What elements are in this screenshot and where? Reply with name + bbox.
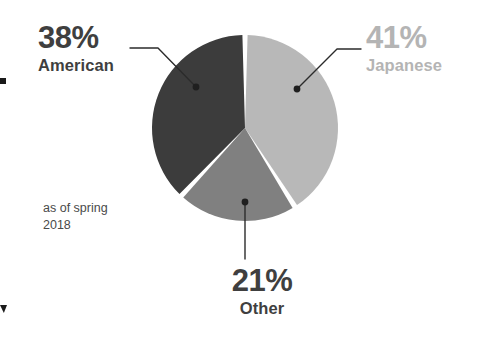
- leader-dot-american: [193, 84, 200, 91]
- callout-american-percent: 38%: [38, 22, 114, 53]
- callout-american: 38% American: [38, 22, 114, 74]
- pie-chart-figure: 38% American 41% Japanese 21% Other as o…: [0, 0, 482, 355]
- leader-dot-japanese: [294, 86, 301, 93]
- edge-artifact-top: [0, 78, 6, 84]
- callout-japanese-category: Japanese: [366, 57, 442, 74]
- callout-other-category: Other: [222, 300, 302, 317]
- source-note-line-2: 2018: [43, 217, 153, 234]
- leader-dot-other: [242, 199, 249, 206]
- callout-american-category: American: [38, 57, 114, 74]
- callout-japanese: 41% Japanese: [366, 22, 442, 74]
- callout-other-percent: 21%: [222, 265, 302, 296]
- source-note: as of spring 2018: [43, 200, 153, 234]
- callout-japanese-percent: 41%: [366, 22, 442, 53]
- source-note-line-1: as of spring: [43, 200, 153, 217]
- callout-other: 21% Other: [222, 265, 302, 317]
